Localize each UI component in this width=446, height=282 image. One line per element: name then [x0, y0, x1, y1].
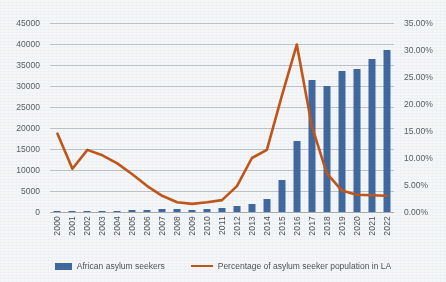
bar-slot	[170, 23, 185, 212]
legend-item-african-asylum-seekers[interactable]: African asylum seekers	[55, 261, 165, 271]
y-axis-right: 35.00%30.00%25.00%20.00%15.00%10.00%5.00…	[396, 0, 446, 282]
x-axis-tick: 2016	[292, 216, 302, 236]
x-axis-tick: 2008	[172, 216, 182, 236]
bar[interactable]	[159, 209, 166, 212]
x-axis-tick: 2005	[127, 216, 137, 236]
bar-slot	[259, 23, 274, 212]
chart-container: 4500040000350003000025000200001500010000…	[0, 0, 446, 282]
y-axis-left-tick: 15000	[16, 145, 40, 154]
bar[interactable]	[323, 86, 330, 212]
bar[interactable]	[69, 211, 76, 213]
bar-slot	[50, 23, 65, 212]
x-axis-tick: 2019	[337, 216, 347, 236]
bar-slot	[200, 23, 215, 212]
x-axis-tick: 2006	[142, 216, 152, 236]
bar-slot	[304, 23, 319, 212]
bar[interactable]	[308, 80, 315, 212]
legend-label-percentage-of-asylum-seeker-population: Percentage of asylum seeker population i…	[218, 261, 391, 271]
bar[interactable]	[353, 69, 360, 212]
x-axis-tick: 2007	[157, 216, 167, 236]
cropped-header-strip	[0, 0, 446, 12]
y-axis-left-tick: 5000	[21, 187, 40, 196]
bar-slot	[364, 23, 379, 212]
chart-legend: African asylum seekers Percentage of asy…	[0, 258, 446, 274]
y-axis-right-tick: 0.00%	[404, 208, 428, 217]
bar[interactable]	[293, 141, 300, 212]
x-axis-tick: 2014	[262, 216, 272, 236]
bar-slot	[349, 23, 364, 212]
bar-slot	[379, 23, 394, 212]
x-axis-tick: 2010	[202, 216, 212, 236]
y-axis-right-tick: 30.00%	[404, 46, 433, 55]
bar[interactable]	[368, 59, 375, 212]
x-axis-tick: 2018	[322, 216, 332, 236]
bar-series-african-asylum-seekers	[50, 23, 394, 212]
legend-item-percentage-of-asylum-seeker-population[interactable]: Percentage of asylum seeker population i…	[191, 261, 391, 271]
legend-bar-swatch-icon	[55, 263, 72, 270]
x-axis-tick: 2000	[52, 216, 62, 236]
x-axis-tick: 2009	[187, 216, 197, 236]
y-axis-right-tick: 5.00%	[404, 181, 428, 190]
bar[interactable]	[174, 209, 181, 212]
y-axis-right-tick: 20.00%	[404, 100, 433, 109]
bar[interactable]	[54, 211, 61, 213]
bar[interactable]	[248, 204, 255, 212]
bar-slot	[110, 23, 125, 212]
x-axis-tick: 2001	[67, 216, 77, 236]
bar[interactable]	[204, 209, 211, 212]
x-axis-tick: 2012	[232, 216, 242, 236]
legend-label-african-asylum-seekers: African asylum seekers	[77, 261, 165, 271]
bar-slot	[229, 23, 244, 212]
x-axis-tick: 2011	[217, 216, 227, 235]
y-axis-left-tick: 0	[35, 208, 40, 217]
bar[interactable]	[338, 71, 345, 212]
x-axis-tick: 2013	[247, 216, 257, 236]
gridline	[50, 212, 394, 213]
bar-slot	[319, 23, 334, 212]
bar[interactable]	[129, 210, 136, 212]
x-axis-tick: 2015	[277, 216, 287, 236]
bar-slot	[274, 23, 289, 212]
y-axis-left-tick: 25000	[16, 103, 40, 112]
y-axis-right-tick: 15.00%	[404, 127, 433, 136]
x-axis: 2000200120022003200420052006200720082009…	[50, 214, 394, 256]
y-axis-left-tick: 45000	[16, 19, 40, 28]
bar[interactable]	[189, 210, 196, 212]
y-axis-left: 4500040000350003000025000200001500010000…	[0, 0, 46, 282]
bar-slot	[155, 23, 170, 212]
y-axis-left-tick: 20000	[16, 124, 40, 133]
y-axis-left-tick: 35000	[16, 61, 40, 70]
bar-slot	[215, 23, 230, 212]
y-axis-left-tick: 10000	[16, 166, 40, 175]
bar-slot	[95, 23, 110, 212]
bar[interactable]	[233, 206, 240, 212]
x-axis-tick: 2022	[382, 216, 392, 236]
bar[interactable]	[278, 180, 285, 212]
x-axis-tick: 2003	[97, 216, 107, 236]
bar[interactable]	[144, 210, 151, 212]
x-axis-tick: 2017	[307, 216, 317, 236]
bar[interactable]	[84, 211, 91, 213]
y-axis-right-tick: 10.00%	[404, 154, 433, 163]
y-axis-right-tick: 25.00%	[404, 73, 433, 82]
bar[interactable]	[114, 211, 121, 213]
bar[interactable]	[99, 211, 106, 213]
bar-slot	[80, 23, 95, 212]
y-axis-right-tick: 35.00%	[404, 19, 433, 28]
bar-slot	[289, 23, 304, 212]
bar[interactable]	[383, 50, 390, 212]
bar-slot	[140, 23, 155, 212]
x-axis-tick: 2021	[367, 216, 377, 236]
bar[interactable]	[263, 199, 270, 212]
bar[interactable]	[218, 208, 225, 212]
legend-line-swatch-icon	[191, 265, 213, 268]
bar-slot	[185, 23, 200, 212]
y-axis-left-tick: 40000	[16, 40, 40, 49]
bar-slot	[334, 23, 349, 212]
x-axis-tick: 2004	[112, 216, 122, 236]
bar-slot	[65, 23, 80, 212]
y-axis-left-tick: 30000	[16, 82, 40, 91]
bar-slot	[125, 23, 140, 212]
bar-slot	[244, 23, 259, 212]
x-axis-tick: 2020	[352, 216, 362, 236]
